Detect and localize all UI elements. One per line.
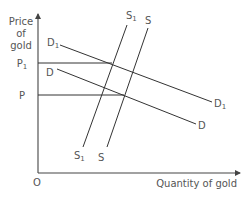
price-label-p: P xyxy=(19,90,25,101)
price-label-p1: P1 xyxy=(17,58,28,71)
demand-curve-d1 xyxy=(60,45,212,102)
supply-curve-s xyxy=(107,28,148,147)
origin-label: O xyxy=(33,177,41,188)
supply-curve-s1 xyxy=(83,25,127,147)
y-axis-label-line-3: gold xyxy=(10,40,32,51)
demand-curve-d xyxy=(57,69,196,124)
supply-label-s1-top: S1 xyxy=(126,10,137,23)
y-axis-label-line-2: of xyxy=(16,28,26,39)
supply-demand-diagram: Price of gold Quantity of gold O P1 P D1… xyxy=(0,0,251,197)
demand-label-d1-start: D1 xyxy=(47,37,59,50)
demand-label-d-start: D xyxy=(46,67,54,78)
x-axis-label: Quantity of gold xyxy=(156,178,237,189)
demand-label-d-end: D xyxy=(198,120,206,131)
demand-label-d1-end: D1 xyxy=(214,98,226,111)
supply-label-s-bottom: S xyxy=(98,152,104,163)
supply-label-s-top: S xyxy=(145,15,151,26)
y-axis-label-line-1: Price xyxy=(9,16,33,27)
supply-label-s1-bottom: S1 xyxy=(74,150,85,163)
